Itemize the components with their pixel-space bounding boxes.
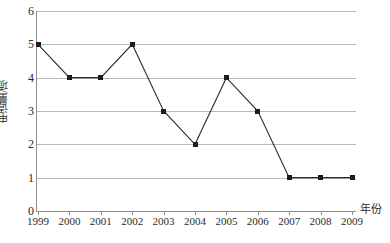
data-point (67, 75, 72, 80)
data-point (350, 175, 355, 180)
data-point (98, 75, 103, 80)
data-point (193, 142, 198, 147)
data-point (161, 109, 166, 114)
line-chart: 6 5 4 3 2 1 0 申请量/项 年份 19992000200120022… (0, 0, 390, 243)
series-line-svg (0, 0, 390, 243)
data-point (36, 42, 41, 47)
series-path (38, 44, 352, 177)
x-tick-label: 2009 (332, 215, 372, 227)
data-point (318, 175, 323, 180)
data-point (255, 109, 260, 114)
data-point (224, 75, 229, 80)
data-point (287, 175, 292, 180)
data-point (130, 42, 135, 47)
